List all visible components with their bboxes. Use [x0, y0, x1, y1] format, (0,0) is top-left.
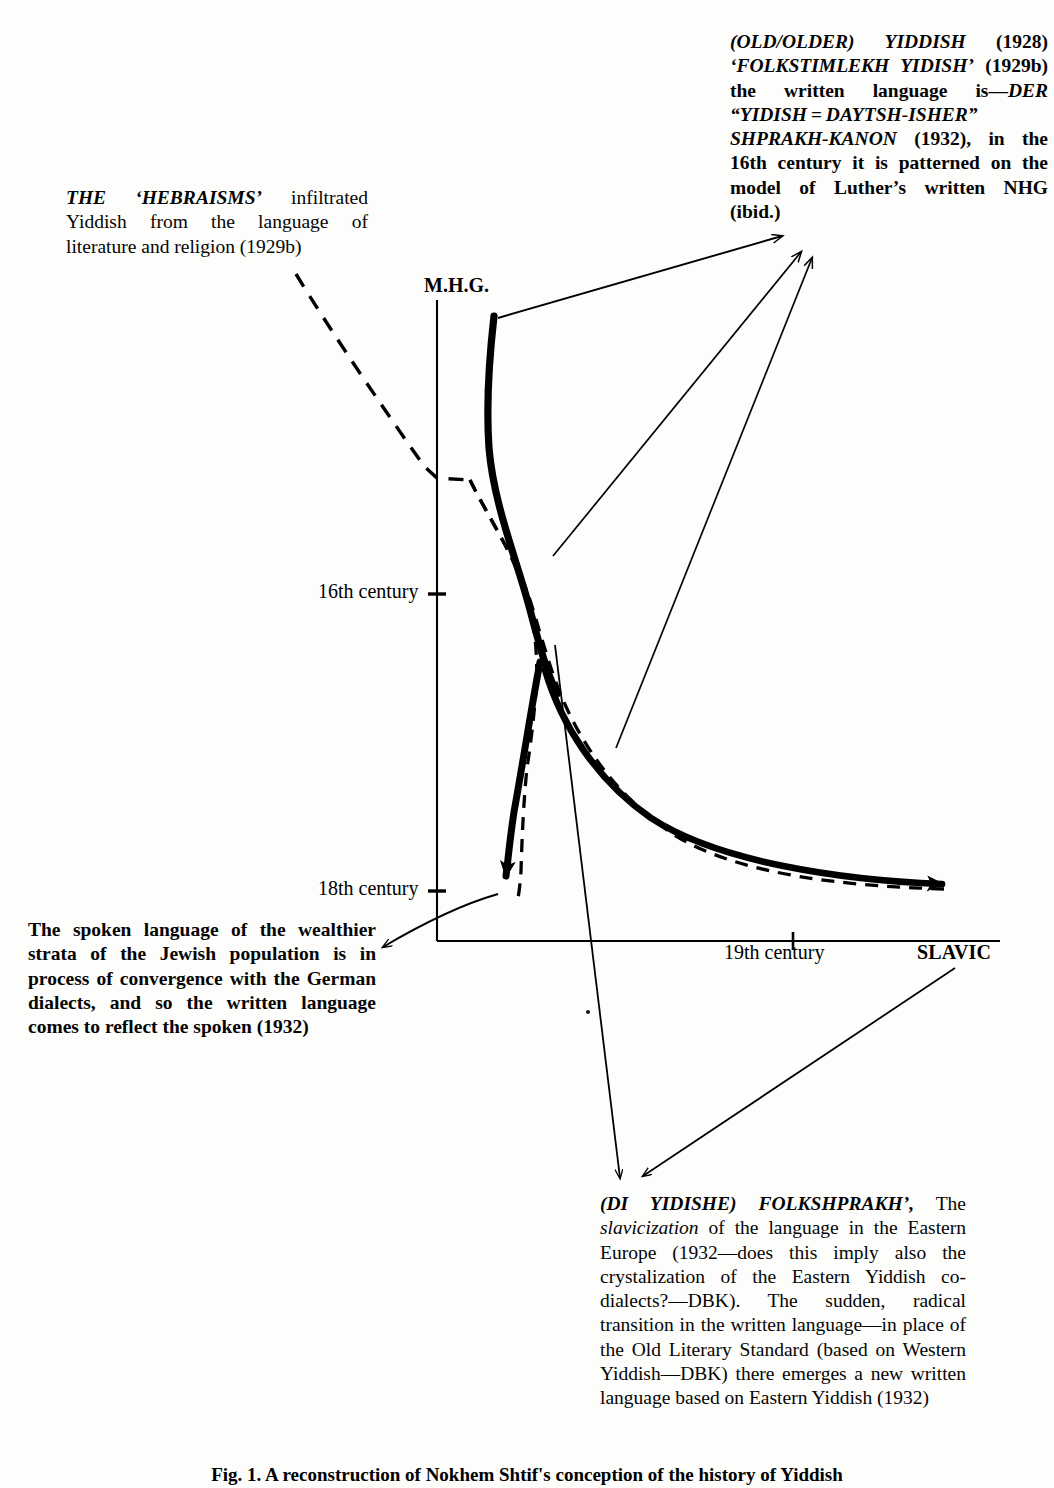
old-older-yiddish-note: (OLD/OLDER) YIDDISH (1928) ‘FOLKSTIMLEKH…	[730, 30, 1048, 224]
folkshprakh-leaders	[555, 645, 955, 1178]
x-axis-label: SLAVIC	[917, 941, 991, 964]
y-tick-label-18th-century: 18th century	[318, 877, 419, 900]
note-text: The spoken language of the wealthier str…	[28, 918, 376, 1039]
spoken-language-note: The spoken language of the wealthier str…	[28, 918, 376, 1039]
note-text: (DI YIDISHE) FOLKSHPRAKH’, The slaviciza…	[600, 1192, 966, 1411]
spoken-language-curve	[488, 316, 942, 884]
y-axis-label: M.H.G.	[424, 274, 489, 297]
ink-speck	[586, 1010, 590, 1014]
written-language-curve	[470, 480, 944, 898]
hebraisms-leader-dashed	[296, 274, 470, 480]
spoken-language-leader	[383, 894, 498, 947]
old-older-yiddish-leaders	[498, 236, 812, 748]
folkshprakh-note: (DI YIDISHE) FOLKSHPRAKH’, The slaviciza…	[600, 1192, 966, 1411]
note-text: (OLD/OLDER) YIDDISH (1928) ‘FOLKSTIMLEKH…	[730, 30, 1048, 224]
axes	[428, 300, 1000, 950]
x-tick-label-19th-century: 19th century	[724, 941, 825, 964]
figure-caption: Fig. 1. A reconstruction of Nokhem Shtif…	[0, 1464, 1054, 1486]
figure-container: M.H.G. 16th century 18th century 19th ce…	[0, 0, 1054, 1488]
note-text: THE ‘HEBRAISMS’ infiltrated Yiddish from…	[66, 186, 368, 259]
y-tick-label-16th-century: 16th century	[318, 580, 419, 603]
hebraisms-note: THE ‘HEBRAISMS’ infiltrated Yiddish from…	[66, 186, 368, 259]
